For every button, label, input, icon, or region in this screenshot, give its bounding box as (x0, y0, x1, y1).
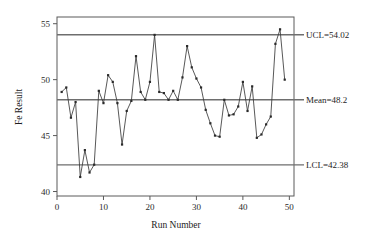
data-point (256, 137, 258, 139)
data-point (149, 81, 151, 83)
data-point (260, 133, 262, 135)
x-axis-tick-label: 20 (145, 202, 155, 212)
y-axis-title: Fe Result (14, 89, 24, 126)
x-axis: 01020304050 (55, 196, 295, 212)
data-point (126, 110, 128, 112)
y-axis-tick-label: 40 (41, 187, 51, 197)
control-line-label-mean: Mean=48.2 (306, 95, 347, 105)
data-point (70, 117, 72, 119)
control-line-label-ucl: UCL=54.02 (306, 30, 349, 40)
data-point (79, 176, 81, 178)
data-point (205, 109, 207, 111)
data-point (153, 34, 155, 36)
control-limit-lines (57, 35, 304, 165)
data-point (195, 77, 197, 79)
data-point (98, 90, 100, 92)
data-point (223, 99, 225, 101)
control-limit-labels: UCL=54.02Mean=48.2LCL=42.38 (306, 30, 349, 170)
x-axis-title: Run Number (151, 220, 201, 230)
plot-frame (57, 17, 294, 196)
data-point (130, 100, 132, 102)
data-point (242, 81, 244, 83)
data-point (181, 76, 183, 78)
data-point (284, 79, 286, 81)
data-point (219, 136, 221, 138)
data-point (237, 105, 239, 107)
y-axis-tick-label: 50 (41, 75, 51, 85)
x-axis-tick-label: 10 (99, 202, 109, 212)
data-point (279, 28, 281, 30)
data-point (116, 102, 118, 104)
data-point (140, 91, 142, 93)
data-point (107, 74, 109, 76)
data-point (214, 134, 216, 136)
data-point (246, 110, 248, 112)
control-line-label-lcl: LCL=42.38 (306, 160, 349, 170)
data-point (121, 143, 123, 145)
data-point (93, 164, 95, 166)
plot-area-border (57, 17, 294, 196)
data-point (74, 101, 76, 103)
data-point (186, 45, 188, 47)
data-point (228, 114, 230, 116)
data-point (251, 85, 253, 87)
data-series (62, 29, 285, 177)
data-point (191, 66, 193, 68)
y-axis: 40455055 (41, 19, 57, 197)
x-axis-tick-label: 40 (238, 202, 248, 212)
data-point (102, 102, 104, 104)
data-point (177, 99, 179, 101)
data-point (163, 92, 165, 94)
x-axis-tick-label: 50 (285, 202, 295, 212)
control-chart: 40455055 01020304050 UCL=54.02Mean=48.2L… (0, 0, 365, 238)
x-axis-tick-label: 0 (55, 202, 60, 212)
data-point (112, 81, 114, 83)
data-point (270, 115, 272, 117)
data-point (172, 90, 174, 92)
data-point (61, 91, 63, 93)
data-point (158, 91, 160, 93)
data-point (200, 86, 202, 88)
x-axis-tick-label: 30 (192, 202, 202, 212)
data-point (88, 171, 90, 173)
data-point (167, 99, 169, 101)
data-point (135, 55, 137, 57)
data-point (265, 123, 267, 125)
data-point (65, 86, 67, 88)
series-line-0 (62, 29, 285, 177)
data-point (84, 149, 86, 151)
y-axis-tick-label: 55 (41, 19, 51, 29)
data-point (274, 43, 276, 45)
data-point (232, 113, 234, 115)
y-axis-tick-label: 45 (41, 131, 51, 141)
control-chart-svg: 40455055 01020304050 UCL=54.02Mean=48.2L… (0, 0, 365, 238)
data-point (209, 122, 211, 124)
data-point (144, 99, 146, 101)
